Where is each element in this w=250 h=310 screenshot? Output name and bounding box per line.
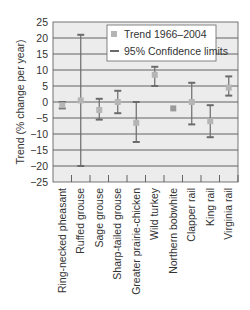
upper-limit-cap bbox=[225, 75, 232, 77]
upper-limit-cap bbox=[188, 82, 195, 84]
trend-marker bbox=[96, 107, 102, 113]
lower-limit-cap bbox=[207, 136, 214, 138]
upper-limit-cap bbox=[114, 90, 121, 92]
confidence-limit-icon bbox=[110, 50, 119, 52]
trend-marker bbox=[59, 102, 65, 108]
category-label: Greater prairie-chicken bbox=[130, 188, 142, 295]
y-tick-label: 15 bbox=[36, 48, 48, 60]
upper-limit-cap bbox=[96, 98, 103, 100]
y-axis-tick-labels: 2520151050−5−10−15−20−25 bbox=[30, 16, 48, 188]
trend-marker bbox=[189, 99, 195, 105]
category-label: Northern bobwhite bbox=[167, 188, 179, 274]
errorbar-chart: 2520151050−5−10−15−20−25 Ring-necked phe… bbox=[0, 0, 250, 310]
y-tick-label: 20 bbox=[36, 32, 48, 44]
y-tick-label: −25 bbox=[30, 176, 48, 188]
trend-marker bbox=[115, 99, 121, 105]
category-label: Sharp-tailed grouse bbox=[111, 188, 123, 280]
y-tick-label: 10 bbox=[36, 64, 48, 76]
trend-marker bbox=[78, 97, 84, 103]
category-label: Virginia rail bbox=[222, 188, 234, 240]
y-tick-label: 0 bbox=[42, 96, 48, 108]
category-label: Sage grouse bbox=[93, 188, 105, 248]
y-axis-title: Trend (% change per year) bbox=[14, 39, 26, 164]
category-label: Ruffed grouse bbox=[74, 188, 86, 254]
category-label: Ring-necked pheasant bbox=[56, 188, 68, 293]
legend-label-confidence: 95% Confidence limits bbox=[124, 45, 228, 57]
upper-limit-cap bbox=[133, 101, 140, 103]
category-label: Wild turkey bbox=[148, 187, 160, 240]
legend-label-trend: Trend 1966–2004 bbox=[124, 28, 207, 40]
lower-limit-cap bbox=[151, 85, 158, 87]
lower-limit-cap bbox=[96, 119, 103, 121]
y-tick-label: −20 bbox=[30, 160, 48, 172]
category-label: Clapper rail bbox=[185, 188, 197, 242]
trend-marker bbox=[207, 118, 213, 124]
y-tick-label: 25 bbox=[36, 16, 48, 28]
lower-limit-cap bbox=[225, 95, 232, 97]
y-tick-label: −15 bbox=[30, 144, 48, 156]
upper-limit-cap bbox=[151, 66, 158, 68]
trend-marker-icon bbox=[111, 31, 117, 37]
upper-limit-cap bbox=[77, 34, 84, 36]
trend-marker bbox=[133, 120, 139, 126]
y-tick-label: 5 bbox=[42, 80, 48, 92]
lower-limit-cap bbox=[114, 112, 121, 114]
lower-limit-cap bbox=[188, 123, 195, 125]
lower-limit-cap bbox=[77, 165, 84, 167]
lower-limit-cap bbox=[133, 141, 140, 143]
category-label: King rail bbox=[204, 188, 216, 226]
trend-marker bbox=[152, 72, 158, 78]
trend-marker bbox=[170, 105, 176, 111]
y-tick-label: −5 bbox=[36, 112, 48, 124]
legend: Trend 1966–2004 95% Confidence limits bbox=[107, 25, 228, 61]
x-axis-category-labels: Ring-necked pheasantRuffed grouseSage gr… bbox=[56, 187, 235, 295]
upper-limit-cap bbox=[207, 104, 214, 106]
y-tick-label: −10 bbox=[30, 128, 48, 140]
trend-marker bbox=[226, 85, 232, 91]
